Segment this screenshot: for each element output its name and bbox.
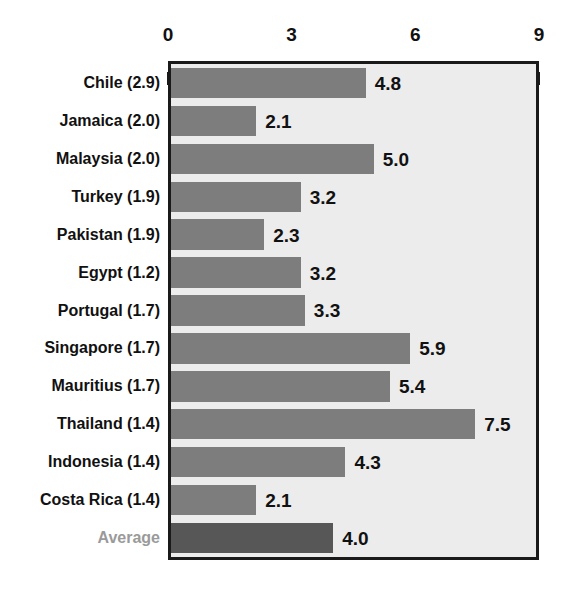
plot-area: 4.82.15.03.22.33.23.35.95.47.54.32.14.0 (168, 61, 539, 560)
bar-row: 5.0 (171, 144, 536, 174)
bar-value-label: 2.1 (265, 111, 291, 130)
bar-row: 4.8 (171, 68, 536, 98)
bar (171, 371, 390, 401)
bar-row: 3.3 (171, 295, 536, 325)
bar-value-label: 3.3 (314, 301, 340, 320)
category-label: Pakistan (1.9) (57, 227, 160, 243)
bar (171, 219, 264, 249)
bar-value-label: 3.2 (310, 263, 336, 282)
bar (171, 68, 366, 98)
x-axis-tick-label: 3 (286, 24, 297, 46)
x-axis: 0369 (168, 24, 539, 48)
bars-container: 4.82.15.03.22.33.23.35.95.47.54.32.14.0 (171, 64, 536, 557)
bar-value-label: 7.5 (484, 415, 510, 434)
bar (171, 409, 475, 439)
bar-value-label: 5.9 (419, 339, 445, 358)
x-axis-tick-label: 0 (163, 24, 174, 46)
category-label: Turkey (1.9) (71, 189, 160, 205)
category-label: Thailand (1.4) (57, 416, 160, 432)
bar-value-label: 3.2 (310, 187, 336, 206)
bar-row: 5.4 (171, 371, 536, 401)
category-label: Indonesia (1.4) (48, 454, 160, 470)
bar (171, 447, 345, 477)
bar (171, 295, 305, 325)
bar-row: 3.2 (171, 257, 536, 287)
bar-value-label: 2.3 (273, 225, 299, 244)
bar-row: 2.1 (171, 485, 536, 515)
category-label: Malaysia (2.0) (56, 151, 160, 167)
bar-row: 2.1 (171, 106, 536, 136)
x-axis-tick-label: 9 (534, 24, 545, 46)
category-label: Singapore (1.7) (44, 340, 160, 356)
bar-chart: 0369 Chile (2.9)Jamaica (2.0)Malaysia (2… (0, 0, 568, 592)
bar-value-label: 2.1 (265, 491, 291, 510)
bar-row: 7.5 (171, 409, 536, 439)
bar (171, 144, 374, 174)
category-label: Chile (2.9) (84, 75, 160, 91)
bar-average (171, 523, 333, 553)
bar (171, 485, 256, 515)
category-label: Average (97, 530, 160, 546)
bar (171, 182, 301, 212)
bar (171, 106, 256, 136)
y-axis-category-labels: Chile (2.9)Jamaica (2.0)Malaysia (2.0)Tu… (0, 61, 160, 560)
bar-row: 4.3 (171, 447, 536, 477)
bar-value-label: 4.0 (342, 529, 368, 548)
x-axis-tick-label: 6 (410, 24, 421, 46)
bar (171, 257, 301, 287)
category-label: Costa Rica (1.4) (40, 492, 160, 508)
bar-row: 3.2 (171, 182, 536, 212)
bar-row: 5.9 (171, 333, 536, 363)
bar-value-label: 5.4 (399, 377, 425, 396)
bar-row: 4.0 (171, 523, 536, 553)
category-label: Mauritius (1.7) (52, 378, 160, 394)
bar-row: 2.3 (171, 219, 536, 249)
bar-value-label: 5.0 (383, 149, 409, 168)
category-label: Jamaica (2.0) (59, 113, 160, 129)
category-label: Portugal (1.7) (58, 303, 160, 319)
bar (171, 333, 410, 363)
bar-value-label: 4.3 (354, 453, 380, 472)
category-label: Egypt (1.2) (78, 265, 160, 281)
bar-value-label: 4.8 (375, 73, 401, 92)
